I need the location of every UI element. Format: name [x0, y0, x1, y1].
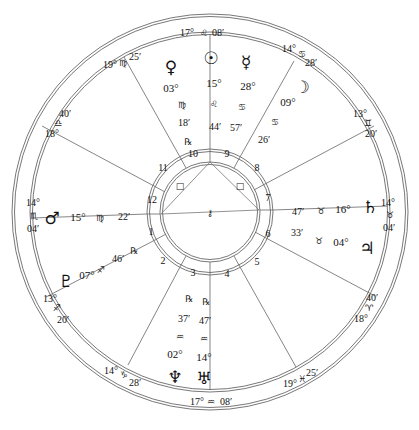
svg-text:♎: ♎: [54, 118, 62, 128]
svg-text:15°: 15°: [206, 77, 221, 89]
uranus-icon: ♅: [196, 368, 211, 388]
svg-text:18°: 18°: [45, 128, 59, 139]
svg-text:19°: 19°: [283, 378, 297, 389]
svg-text:♓: ♓: [298, 374, 306, 384]
svg-text:22′: 22′: [118, 211, 130, 222]
svg-text:♑: ♑: [120, 370, 128, 380]
svg-text:25′: 25′: [306, 367, 318, 378]
svg-text:♒: ♒: [200, 334, 208, 344]
planet-sun: ☉ 15° ♌ 44′: [203, 48, 221, 132]
svg-text:04′: 04′: [383, 222, 395, 233]
moon-icon: ☽: [294, 77, 309, 97]
planet-saturn: ♄ 16° ♉ 47′: [292, 197, 378, 217]
svg-text:14°: 14°: [196, 351, 211, 363]
retrograde-icon: ℞: [184, 137, 192, 147]
house-number-2: 2: [161, 255, 166, 266]
svg-text:♉: ♉: [317, 206, 325, 216]
cusp-label-12: 40′ ♎ 18°: [45, 108, 71, 139]
cusp-label-asc: 14° ♏ 04′: [26, 197, 40, 234]
svg-text:08′: 08′: [220, 396, 232, 407]
cusp-label-9: 14° ♋ 28′: [282, 43, 317, 68]
house-number-5: 5: [255, 256, 260, 267]
svg-text:14°: 14°: [381, 197, 395, 208]
svg-text:03°: 03°: [163, 82, 178, 94]
svg-text:♒: ♒: [207, 397, 215, 407]
svg-text:09°: 09°: [280, 96, 295, 108]
svg-text:♌: ♌: [210, 99, 218, 109]
planet-mars: ♂ 15° ♍ 22′: [44, 208, 130, 228]
aspect-mc-dsc: [210, 162, 259, 210]
svg-text:♏: ♏: [30, 211, 38, 221]
svg-text:♍: ♍: [96, 213, 104, 223]
svg-text:14°: 14°: [282, 43, 296, 54]
svg-text:47′: 47′: [199, 315, 211, 326]
house-number-11: 11: [158, 162, 168, 173]
svg-text:28′: 28′: [129, 377, 141, 388]
svg-text:19°: 19°: [103, 59, 117, 70]
cusp-label-6: 40′ ♈ 18°: [354, 292, 378, 324]
aspect-square-symbol-right: □: [236, 181, 245, 191]
svg-text:26′: 26′: [258, 134, 270, 145]
house-number-10: 10: [188, 148, 198, 159]
svg-text:♍: ♍: [178, 100, 186, 110]
svg-text:47′: 47′: [292, 206, 304, 217]
house-number-3: 3: [191, 267, 196, 278]
svg-text:46′: 46′: [112, 253, 124, 264]
aspect-asc-mc: [161, 162, 210, 214]
svg-text:17°: 17°: [180, 27, 194, 38]
svg-text:♐: ♐: [97, 265, 105, 275]
svg-text:20′: 20′: [365, 128, 377, 139]
svg-text:♊: ♊: [364, 118, 372, 128]
svg-text:18°: 18°: [354, 313, 368, 324]
svg-text:37′: 37′: [178, 313, 190, 324]
svg-text:04′: 04′: [27, 223, 39, 234]
natal-chart-wheel: □ □ ⚷ 10 9 11 8 12 7 1 6 2 5 3 4 17° ♌ 0…: [0, 0, 419, 430]
planet-neptune: ♆ 02° ♒ 37′ ℞: [167, 294, 193, 387]
svg-text:♒: ♒: [176, 332, 184, 342]
venus-icon: ♀: [165, 57, 177, 77]
house-number-7: 7: [266, 192, 271, 203]
neptune-icon: ♆: [167, 367, 182, 387]
svg-text:28°: 28°: [240, 80, 255, 92]
sun-icon: ☉: [203, 48, 218, 68]
planet-jupiter: ♃ 04° ♉ 33′: [291, 227, 375, 258]
planet-pluto: ♇ 07° ♐ 46′ ℞: [58, 246, 138, 291]
svg-text:02°: 02°: [167, 348, 182, 360]
mercury-icon: ☿: [241, 52, 251, 72]
aspect-square-symbol-left: □: [176, 181, 185, 191]
planets: ♀ 03° ♍ 18′ ℞ ☉ 15° ♌ 44′ ☿ 28° ♋ 57′ ☽ …: [44, 48, 377, 388]
house-number-12: 12: [147, 194, 157, 205]
svg-text:14°: 14°: [26, 197, 40, 208]
pluto-icon: ♇: [58, 271, 73, 291]
retrograde-icon: ℞: [202, 297, 210, 307]
svg-text:♋: ♋: [271, 117, 279, 127]
cusp-label-ic: 17° ♒ 08′: [190, 396, 232, 407]
mars-icon: ♂: [44, 208, 59, 228]
svg-text:20′: 20′: [57, 314, 69, 325]
svg-text:04°: 04°: [333, 236, 348, 248]
svg-text:17°: 17°: [190, 396, 204, 407]
svg-text:♈: ♈: [365, 303, 374, 313]
svg-text:28′: 28′: [305, 57, 317, 68]
center-glyph: ⚷: [207, 208, 214, 218]
retrograde-icon: ℞: [130, 246, 138, 256]
saturn-icon: ♄: [362, 197, 377, 217]
svg-text:♌: ♌: [200, 28, 208, 38]
svg-text:♍: ♍: [119, 58, 127, 68]
planet-uranus: ♅ 14° ♒ 47′ ℞: [196, 297, 211, 388]
jupiter-icon: ♃: [359, 238, 374, 258]
svg-text:♐: ♐: [53, 303, 61, 313]
cusp-label-11: 19° ♍ 25′: [103, 51, 141, 70]
planet-mercury: ☿ 28° ♋ 57′: [230, 52, 256, 133]
svg-text:♉: ♉: [315, 236, 323, 246]
retrograde-icon: ℞: [185, 294, 193, 304]
svg-text:18′: 18′: [178, 117, 190, 128]
svg-text:07°: 07°: [79, 269, 94, 281]
house-number-6: 6: [266, 228, 271, 239]
svg-text:57′: 57′: [230, 122, 242, 133]
svg-text:08′: 08′: [212, 27, 224, 38]
cusp-label-mc: 17° ♌ 08′: [180, 27, 224, 38]
svg-text:14°: 14°: [104, 365, 118, 376]
house-number-9: 9: [225, 148, 230, 159]
house-number-1: 1: [149, 226, 154, 237]
